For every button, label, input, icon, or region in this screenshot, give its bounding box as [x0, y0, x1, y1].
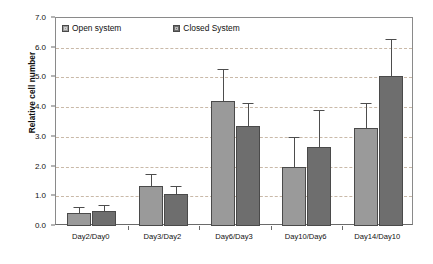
y-tick-mark [51, 195, 55, 196]
error-bar [176, 186, 177, 193]
error-bar-cap [242, 103, 253, 104]
bar-closed-system [307, 147, 331, 226]
bar-open-system [67, 213, 91, 226]
legend-item-open-system: Open system [62, 23, 121, 33]
gridline [56, 48, 412, 49]
x-tick-mark [271, 226, 272, 230]
y-tick-label: 6.0 [0, 42, 46, 51]
bar-open-system [139, 186, 163, 226]
error-bar [366, 103, 367, 128]
bar-closed-system [92, 211, 116, 226]
error-bar-cap [145, 174, 156, 175]
y-tick-mark [51, 106, 55, 107]
y-axis-title: Relative cell number [28, 13, 37, 173]
y-tick-label: 4.0 [0, 102, 46, 111]
y-tick-label: 0.0 [0, 221, 46, 230]
bar-open-system [282, 167, 306, 226]
gridline [56, 77, 412, 78]
chart-legend: Open system Closed System [62, 23, 240, 33]
y-tick-mark [51, 165, 55, 166]
bar-closed-system [164, 194, 188, 226]
y-tick-mark [51, 17, 55, 18]
error-bar-cap [289, 137, 300, 138]
legend-swatch-icon [62, 25, 69, 32]
y-tick-label: 7.0 [0, 13, 46, 22]
error-bar-cap [217, 69, 228, 70]
error-bar [319, 110, 320, 147]
y-tick-mark [51, 46, 55, 47]
legend-item-closed-system: Closed System [173, 23, 239, 33]
x-tick-label: Day3/Day2 [144, 232, 182, 241]
error-bar [223, 69, 224, 102]
error-bar-cap [99, 205, 110, 206]
bar-closed-system [379, 76, 403, 226]
error-bar [294, 137, 295, 167]
x-tick-mark [199, 226, 200, 230]
x-tick-label: Day10/Day6 [285, 232, 327, 241]
x-tick-label: Day2/Day0 [72, 232, 110, 241]
x-tick-label: Day14/Day10 [354, 232, 400, 241]
error-bar [151, 174, 152, 186]
y-tick-label: 2.0 [0, 161, 46, 170]
bar-open-system [211, 101, 235, 226]
y-tick-label: 1.0 [0, 191, 46, 200]
error-bar-cap [314, 110, 325, 111]
error-bar-cap [385, 39, 396, 40]
bar-open-system [354, 128, 378, 226]
x-tick-mark [128, 226, 129, 230]
y-tick-mark [51, 76, 55, 77]
x-tick-label: Day6/Day3 [215, 232, 253, 241]
x-tick-mark [342, 226, 343, 230]
y-tick-mark [51, 225, 55, 226]
legend-label: Closed System [183, 23, 239, 33]
y-tick-mark [51, 135, 55, 136]
error-bar [248, 103, 249, 127]
y-tick-label: 5.0 [0, 72, 46, 81]
error-bar-cap [74, 207, 85, 208]
y-tick-label: 3.0 [0, 131, 46, 140]
bar-closed-system [236, 126, 260, 226]
bar-chart: Relative cell number 0.01.02.03.04.05.06… [0, 0, 433, 264]
plot-area [55, 17, 413, 225]
error-bar [391, 39, 392, 76]
error-bar-cap [360, 103, 371, 104]
error-bar-cap [170, 186, 181, 187]
legend-swatch-icon [173, 25, 180, 32]
legend-label: Open system [72, 23, 121, 33]
